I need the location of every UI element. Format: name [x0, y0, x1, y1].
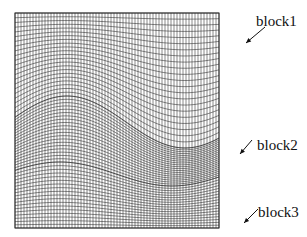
label-block2: block2	[257, 138, 298, 153]
label-block1: block1	[256, 14, 297, 29]
mesh-grid-lines	[15, 13, 219, 228]
mesh-diagram	[0, 0, 307, 237]
label-block3: block3	[258, 205, 299, 220]
annotation-arrows	[240, 27, 265, 223]
